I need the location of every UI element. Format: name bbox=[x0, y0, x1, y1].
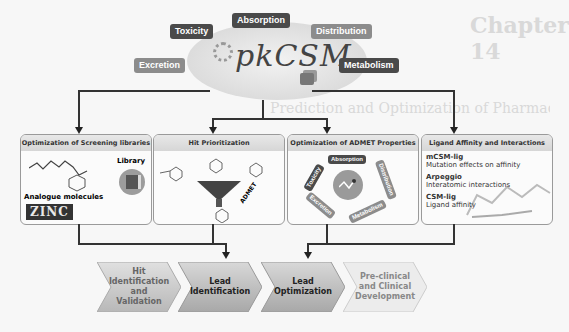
stage-hit-identification: Hit Identification and Validation bbox=[97, 262, 181, 312]
connector bbox=[212, 224, 214, 244]
tool-desc-mcsm-lig: Mutation effects on affinity bbox=[426, 161, 520, 169]
result-molecule-icon bbox=[206, 207, 236, 223]
arrow-down-icon bbox=[450, 127, 458, 134]
arrow-down-icon bbox=[75, 127, 83, 134]
stage-label: Pre-clinical and Clinical Development bbox=[355, 262, 415, 312]
arrow-down-icon bbox=[323, 127, 331, 134]
connector bbox=[453, 90, 455, 128]
tool-desc-csm-lig: Ligand affinity bbox=[426, 201, 520, 209]
background-chapter-text: Chapter 14 bbox=[470, 12, 569, 64]
connector bbox=[262, 100, 264, 120]
tool-name-csm-lig: CSM-lig bbox=[426, 193, 520, 201]
connector bbox=[453, 224, 455, 244]
stage-lead-identification: Lead Identification bbox=[178, 262, 262, 312]
funnel-icon bbox=[197, 181, 241, 201]
panel-hit-prioritization: Hit Prioritization ADMET bbox=[153, 134, 285, 225]
stage-preclinical-clinical: Pre-clinical and Clinical Development bbox=[343, 262, 427, 312]
arrow-down-icon bbox=[304, 252, 312, 259]
funnel-spout bbox=[216, 199, 222, 207]
background-title-text: Prediction and Optimization of Pharmacok… bbox=[270, 100, 550, 116]
panel-title: Optimization of ADMET Properties bbox=[288, 135, 418, 151]
computer-icon bbox=[300, 73, 314, 85]
property-excretion: Excretion bbox=[134, 58, 185, 73]
library-label: Library bbox=[117, 157, 145, 165]
panel-title: Ligand Affinity and Interactions bbox=[422, 135, 552, 151]
panel-ligand-affinity: Ligand Affinity and Interactions mCSM-li… bbox=[421, 134, 553, 225]
arrow-down-icon bbox=[222, 252, 230, 259]
panel-admet-optimization: Optimization of ADMET Properties Absorpt… bbox=[287, 134, 419, 225]
gear-icon bbox=[213, 42, 233, 62]
panel-title: Optimization of Screening libraries bbox=[21, 135, 151, 151]
ring-distribution: Distribution bbox=[375, 159, 397, 199]
connector bbox=[78, 90, 210, 92]
tool-desc-arpeggio: Interatomic interactions bbox=[426, 181, 520, 189]
connector bbox=[212, 118, 327, 120]
property-absorption: Absorption bbox=[232, 13, 290, 28]
stage-label: Lead Optimization bbox=[273, 262, 333, 312]
pkcsm-logo: pkCSM bbox=[235, 38, 352, 73]
admet-funnel-label: ADMET bbox=[238, 181, 257, 205]
arrow-down-icon bbox=[209, 127, 217, 134]
connector bbox=[78, 90, 80, 128]
ring-absorption: Absorption bbox=[328, 155, 366, 164]
stage-label: Lead Identification bbox=[190, 262, 250, 312]
ring-excretion: Excretion bbox=[305, 191, 336, 219]
connector bbox=[312, 90, 454, 92]
molecules-icon bbox=[160, 153, 280, 183]
zinc-logo: ZINC bbox=[26, 204, 73, 220]
stage-label: Hit Identification and Validation bbox=[109, 262, 169, 312]
property-distribution: Distribution bbox=[311, 24, 372, 39]
trend-icon bbox=[339, 179, 359, 191]
connector bbox=[326, 224, 328, 244]
ring-metabolism: Metabolism bbox=[348, 199, 387, 224]
library-icon bbox=[119, 169, 145, 195]
property-toxicity: Toxicity bbox=[170, 24, 213, 39]
panel-title: Hit Prioritization bbox=[154, 135, 284, 151]
connector bbox=[307, 243, 455, 245]
ring-toxicity: Toxicity bbox=[303, 163, 325, 192]
molecule-icon bbox=[29, 153, 99, 193]
stage-lead-optimization: Lead Optimization bbox=[261, 262, 345, 312]
analogue-molecules-label: Analogue molecules bbox=[24, 193, 103, 201]
tool-name-arpeggio: Arpeggio bbox=[426, 173, 520, 181]
tool-name-mcsm-lig: mCSM-lig bbox=[426, 153, 520, 161]
property-metabolism: Metabolism bbox=[339, 58, 399, 73]
connector bbox=[78, 243, 227, 245]
panel-screening-libraries: Optimization of Screening libraries Libr… bbox=[20, 134, 152, 225]
connector bbox=[78, 224, 80, 244]
